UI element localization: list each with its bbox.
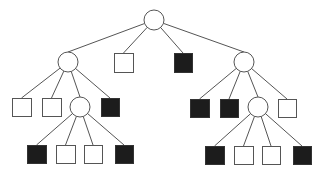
filled-square-node <box>294 147 312 165</box>
tree-edge <box>66 116 77 145</box>
tree-nodes <box>13 10 312 165</box>
tree-edge <box>265 114 302 146</box>
tree-edge <box>68 23 145 52</box>
tree-edge <box>163 23 244 52</box>
tree-edge <box>88 114 124 145</box>
filled-square-node <box>102 99 120 117</box>
tree-edge <box>161 28 183 53</box>
tree-edge <box>76 69 110 98</box>
tree-edge <box>22 68 61 98</box>
empty-square-node <box>13 99 32 117</box>
tree-edge <box>261 116 271 146</box>
empty-square-node <box>235 147 254 165</box>
filled-square-node <box>221 100 239 118</box>
tree-edge <box>248 71 258 97</box>
tree-edge <box>52 71 64 98</box>
empty-square-node <box>263 147 281 165</box>
tree-edge <box>124 27 148 53</box>
empty-square-node <box>85 146 103 164</box>
circle-node <box>234 52 254 72</box>
empty-square-node <box>43 99 62 117</box>
circle-node <box>70 97 90 117</box>
empty-square-node <box>279 100 297 118</box>
tree-edge <box>244 116 255 146</box>
circle-node <box>144 10 164 30</box>
filled-square-node <box>28 146 47 164</box>
tree-edges <box>22 23 303 146</box>
circle-node <box>248 97 268 117</box>
tree-edge <box>83 116 93 145</box>
circle-node <box>58 52 78 72</box>
filled-square-node <box>206 147 225 165</box>
tree-edge <box>229 71 240 99</box>
tree-edge <box>71 71 80 97</box>
empty-square-node <box>57 146 76 164</box>
tree-diagram <box>0 0 323 174</box>
empty-square-node <box>115 54 134 73</box>
filled-square-node <box>175 54 193 73</box>
filled-square-node <box>116 146 134 164</box>
filled-square-node <box>191 100 210 118</box>
